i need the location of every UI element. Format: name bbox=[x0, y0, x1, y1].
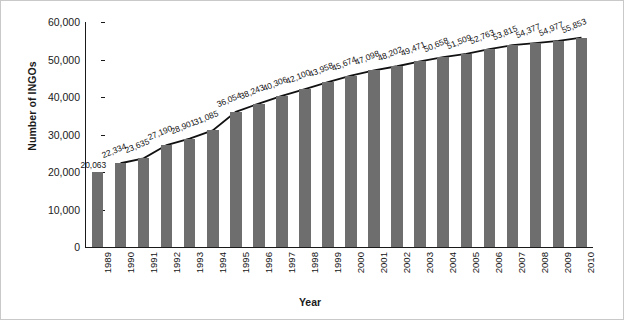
bar bbox=[207, 130, 219, 247]
x-axis-tick-label: 1993 bbox=[194, 252, 205, 273]
y-axis-tick-label: 0 bbox=[24, 241, 80, 253]
y-axis-tick-label: 30,000 bbox=[24, 129, 80, 141]
x-axis-tick-label: 1998 bbox=[309, 252, 320, 273]
bar bbox=[368, 70, 380, 247]
bar bbox=[230, 112, 242, 247]
x-axis-tick-label: 1997 bbox=[286, 252, 297, 273]
x-axis-tick-label: 1996 bbox=[263, 252, 274, 273]
x-axis-tick-label: 1994 bbox=[217, 252, 228, 273]
x-axis-tick-label: 2005 bbox=[470, 252, 481, 273]
bar bbox=[437, 57, 449, 247]
x-axis-tick-label: 2009 bbox=[562, 252, 573, 273]
y-axis-tick-label: 50,000 bbox=[24, 54, 80, 66]
bar bbox=[161, 145, 173, 247]
x-axis-tick-label: 2007 bbox=[516, 252, 527, 273]
x-axis-tick-label: 1995 bbox=[240, 252, 251, 273]
bar bbox=[414, 61, 426, 247]
x-axis-tick-label: 2000 bbox=[355, 252, 366, 273]
bar bbox=[322, 82, 334, 247]
x-axis-tick-label: 2008 bbox=[539, 252, 550, 273]
bar bbox=[138, 158, 150, 247]
ingo-growth-chart: Number of INGOs 010,00020,00030,00040,00… bbox=[0, 0, 625, 321]
x-axis-line bbox=[85, 247, 593, 248]
bar bbox=[391, 66, 403, 247]
bar bbox=[253, 104, 265, 247]
bar bbox=[484, 49, 496, 247]
x-axis-tick-label: 2006 bbox=[493, 252, 504, 273]
bar bbox=[92, 172, 104, 247]
x-axis-tick-label: 1990 bbox=[125, 252, 136, 273]
x-axis-tick-label: 2003 bbox=[424, 252, 435, 273]
x-axis-tick-label: 2004 bbox=[447, 252, 458, 273]
plot-area: 20,06322,33423,63527,19028,90131,08536,0… bbox=[86, 22, 593, 247]
x-axis-tick-label: 1992 bbox=[171, 252, 182, 273]
bar bbox=[576, 38, 588, 247]
x-axis-tick-label: 2001 bbox=[378, 252, 389, 273]
bar bbox=[276, 96, 288, 247]
y-axis-tick-labels: 010,00020,00030,00040,00050,00060,000 bbox=[20, 0, 80, 321]
bar bbox=[299, 89, 311, 247]
x-axis-tick-label: 1999 bbox=[332, 252, 343, 273]
x-axis-tick-label: 1991 bbox=[148, 252, 159, 273]
x-axis-tick-label: 1989 bbox=[102, 252, 113, 273]
bar bbox=[184, 139, 196, 247]
x-axis-tick-label: 2010 bbox=[585, 252, 596, 273]
bar bbox=[345, 76, 357, 247]
bar bbox=[115, 163, 127, 247]
bar bbox=[553, 41, 565, 247]
bar bbox=[530, 43, 542, 247]
bar bbox=[461, 54, 473, 247]
y-axis-tick-label: 20,000 bbox=[24, 166, 80, 178]
y-axis-tick-label: 40,000 bbox=[24, 91, 80, 103]
y-axis-tick-label: 60,000 bbox=[24, 16, 80, 28]
bar bbox=[507, 45, 519, 247]
x-axis-title: Year bbox=[0, 296, 625, 308]
x-axis-title-text: Year bbox=[299, 296, 321, 308]
y-axis-tick-label: 10,000 bbox=[24, 204, 80, 216]
bar-value-label: 20,063 bbox=[81, 160, 107, 170]
x-axis-tick-label: 2002 bbox=[401, 252, 412, 273]
